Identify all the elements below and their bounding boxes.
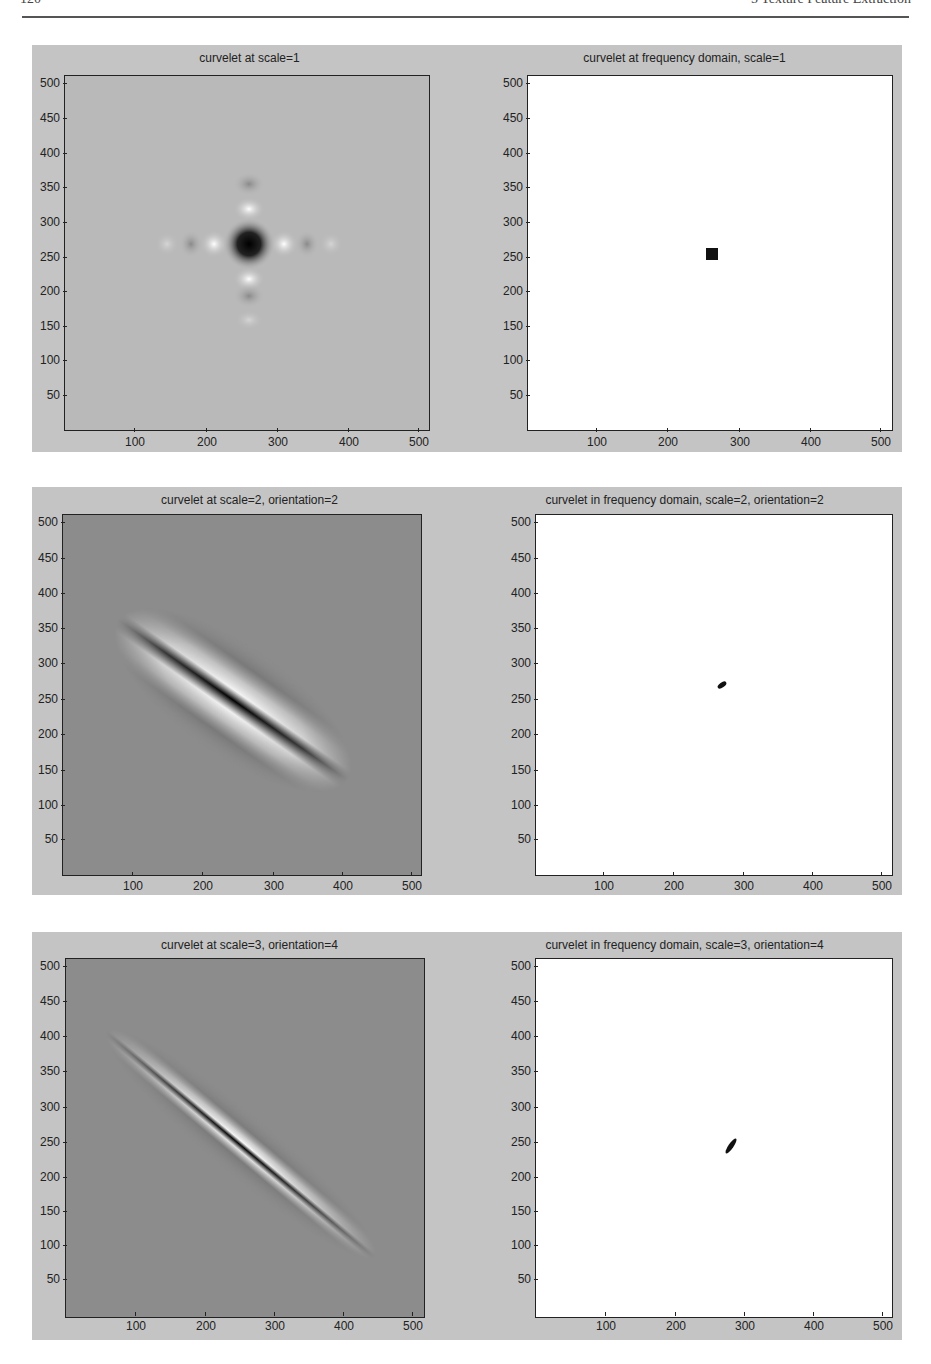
y-tick: 200 bbox=[28, 727, 58, 741]
plot-area bbox=[65, 958, 425, 1318]
y-tick: 500 bbox=[501, 959, 531, 973]
x-tick: 300 bbox=[730, 1319, 760, 1333]
x-tick: 400 bbox=[799, 1319, 829, 1333]
y-tick: 300 bbox=[30, 215, 60, 229]
y-tick: 450 bbox=[493, 111, 523, 125]
subplot-spatial-scale1: curvelet at scale=1 bbox=[32, 45, 467, 452]
y-tick: 350 bbox=[28, 621, 58, 635]
y-tick: 50 bbox=[28, 832, 58, 846]
x-tick: 100 bbox=[591, 1319, 621, 1333]
y-tick: 200 bbox=[501, 1170, 531, 1184]
y-tick: 200 bbox=[30, 284, 60, 298]
y-tick: 400 bbox=[501, 586, 531, 600]
y-tick: 200 bbox=[501, 727, 531, 741]
y-tick: 250 bbox=[28, 692, 58, 706]
subplot-title: curvelet at scale=2, orientation=2 bbox=[32, 493, 467, 507]
subplot-spatial-scale3: curvelet at scale=3, orientation=4 bbox=[32, 932, 467, 1339]
y-tick: 100 bbox=[501, 1238, 531, 1252]
subplot-title: curvelet in frequency domain, scale=2, o… bbox=[467, 493, 902, 507]
y-tick: 100 bbox=[501, 798, 531, 812]
x-tick: 300 bbox=[263, 435, 293, 449]
y-tick: 250 bbox=[30, 1135, 60, 1149]
header-rule bbox=[22, 16, 909, 18]
x-tick: 400 bbox=[329, 1319, 359, 1333]
frequency-image bbox=[536, 515, 892, 875]
plot-area bbox=[64, 75, 430, 431]
y-tick: 400 bbox=[30, 1029, 60, 1043]
plot-area bbox=[535, 514, 893, 876]
x-tick: 400 bbox=[328, 879, 358, 893]
y-tick: 300 bbox=[493, 215, 523, 229]
y-tick: 150 bbox=[30, 1204, 60, 1218]
y-tick: 200 bbox=[30, 1170, 60, 1184]
figure-row-3: curvelet at scale=3, orientation=4 bbox=[32, 932, 902, 1340]
y-tick: 200 bbox=[493, 284, 523, 298]
x-tick: 100 bbox=[118, 879, 148, 893]
y-tick: 250 bbox=[501, 692, 531, 706]
plot-area bbox=[527, 75, 893, 431]
x-tick: 300 bbox=[729, 879, 759, 893]
y-tick: 450 bbox=[30, 111, 60, 125]
figure-row-2: curvelet at scale=2, orientation=2 bbox=[32, 487, 902, 895]
subplot-title: curvelet at scale=3, orientation=4 bbox=[32, 938, 467, 952]
y-tick: 450 bbox=[501, 551, 531, 565]
x-tick: 100 bbox=[120, 435, 150, 449]
frequency-image bbox=[536, 959, 892, 1317]
y-tick: 400 bbox=[28, 586, 58, 600]
y-tick: 150 bbox=[28, 763, 58, 777]
subplot-title: curvelet at frequency domain, scale=1 bbox=[467, 51, 902, 65]
y-tick: 500 bbox=[28, 515, 58, 529]
y-tick: 50 bbox=[30, 1272, 60, 1286]
y-tick: 100 bbox=[30, 353, 60, 367]
y-tick: 350 bbox=[30, 180, 60, 194]
subplot-title: curvelet in frequency domain, scale=3, o… bbox=[467, 938, 902, 952]
y-tick: 50 bbox=[493, 388, 523, 402]
y-tick: 400 bbox=[30, 146, 60, 160]
x-tick: 500 bbox=[867, 879, 897, 893]
x-tick: 100 bbox=[582, 435, 612, 449]
y-tick: 400 bbox=[493, 146, 523, 160]
figure-row-1: curvelet at scale=1 bbox=[32, 45, 902, 452]
x-tick: 300 bbox=[259, 879, 289, 893]
y-tick: 500 bbox=[493, 76, 523, 90]
x-tick: 200 bbox=[191, 1319, 221, 1333]
y-tick: 450 bbox=[28, 551, 58, 565]
y-tick: 500 bbox=[30, 959, 60, 973]
x-tick: 500 bbox=[397, 879, 427, 893]
y-tick: 250 bbox=[501, 1135, 531, 1149]
y-tick: 150 bbox=[501, 763, 531, 777]
x-tick: 100 bbox=[121, 1319, 151, 1333]
y-tick: 350 bbox=[501, 621, 531, 635]
x-tick: 200 bbox=[188, 879, 218, 893]
curvelet-image bbox=[63, 515, 421, 875]
subplot-frequency-scale1: curvelet at frequency domain, scale=1 50… bbox=[467, 45, 902, 452]
frequency-image bbox=[528, 76, 892, 430]
y-tick: 350 bbox=[493, 180, 523, 194]
subplot-spatial-scale2: curvelet at scale=2, orientation=2 bbox=[32, 487, 467, 894]
y-tick: 300 bbox=[28, 656, 58, 670]
x-tick: 400 bbox=[798, 879, 828, 893]
y-tick: 350 bbox=[501, 1064, 531, 1078]
y-tick: 50 bbox=[501, 832, 531, 846]
y-tick: 450 bbox=[501, 994, 531, 1008]
y-tick: 300 bbox=[30, 1100, 60, 1114]
y-tick: 350 bbox=[30, 1064, 60, 1078]
y-tick: 100 bbox=[28, 798, 58, 812]
y-tick: 250 bbox=[30, 250, 60, 264]
y-tick: 50 bbox=[501, 1272, 531, 1286]
subplot-title: curvelet at scale=1 bbox=[32, 51, 467, 65]
y-tick: 400 bbox=[501, 1029, 531, 1043]
y-tick: 100 bbox=[493, 353, 523, 367]
plot-area bbox=[535, 958, 893, 1318]
plot-area bbox=[62, 514, 422, 876]
x-tick: 200 bbox=[192, 435, 222, 449]
x-tick: 300 bbox=[260, 1319, 290, 1333]
subplot-frequency-scale2: curvelet in frequency domain, scale=2, o… bbox=[467, 487, 902, 894]
x-tick: 500 bbox=[868, 1319, 898, 1333]
chapter-header: 5 Texture Feature Extraction bbox=[751, 0, 911, 7]
y-tick: 500 bbox=[501, 515, 531, 529]
y-tick: 300 bbox=[501, 656, 531, 670]
x-tick: 300 bbox=[725, 435, 755, 449]
y-tick: 500 bbox=[30, 76, 60, 90]
curvelet-image bbox=[65, 76, 429, 430]
